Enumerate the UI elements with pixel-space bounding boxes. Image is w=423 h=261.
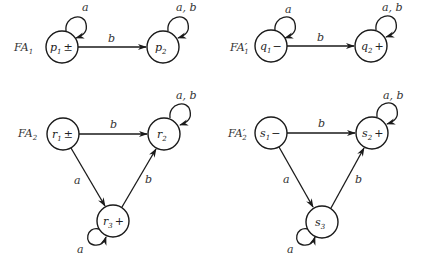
- edge-label: a, b: [176, 1, 197, 14]
- fa1-prime-diagram: FA′1 a b a, b q1− q2+: [229, 1, 403, 62]
- edge-label: a, b: [383, 89, 404, 102]
- fa1-diagram: FA1 a b a, b p1± p2: [13, 1, 197, 63]
- fa2-diagram: FA2 b a b a a, b r1± r2 r3+: [17, 89, 197, 256]
- edge-label: a, b: [382, 1, 403, 14]
- state-r2: [148, 118, 180, 150]
- edge-label: b: [108, 32, 115, 45]
- fa1-prime-label: FA′1: [229, 41, 249, 56]
- edge-label: b: [110, 118, 117, 131]
- state-s1-label: s1−: [260, 127, 280, 142]
- fa2-prime-label: FA′2: [227, 127, 247, 142]
- fa2-prime-diagram: FA′2 b a b a a, b s1− s2+ s3: [227, 89, 404, 256]
- state-p2: [147, 31, 179, 63]
- edge-label: b: [317, 31, 324, 44]
- edge-label: a: [285, 3, 292, 16]
- state-s3: [306, 206, 338, 238]
- edge-label: a: [77, 243, 84, 256]
- edge-label: a: [82, 1, 89, 14]
- edge-label: a: [283, 173, 290, 186]
- edge-label: b: [145, 173, 152, 186]
- fa2-label: FA2: [17, 127, 38, 142]
- edge-label: a: [74, 174, 81, 187]
- fa1-label: FA1: [13, 41, 33, 56]
- edge-label: a: [287, 243, 294, 256]
- edge-label: b: [318, 117, 325, 130]
- state-r3: [97, 205, 129, 237]
- edge-label: b: [355, 173, 362, 186]
- automata-diagram: FA1 a b a, b p1± p2 FA′1 a b a, b q1− q2…: [0, 0, 423, 261]
- edge-label: a, b: [176, 89, 197, 102]
